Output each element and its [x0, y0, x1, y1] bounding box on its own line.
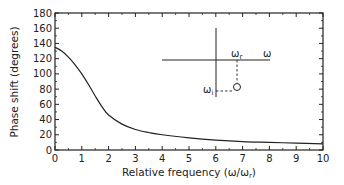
x-tick-label: 6 [213, 153, 219, 164]
x-tick-label: 4 [159, 153, 165, 164]
x-tick-label: 2 [105, 153, 111, 164]
x-tick-label: 3 [132, 153, 138, 164]
y-tick-label: 120 [33, 53, 52, 64]
complex-plane-inset: ωr ω ωi [162, 28, 271, 97]
x-tick-label: 1 [79, 153, 85, 164]
x-axis-tick-labels: 012345678910 [52, 153, 330, 164]
y-tick-label: 140 [33, 38, 52, 49]
x-tick-label: 5 [186, 153, 192, 164]
y-tick-label: 100 [33, 68, 52, 79]
x-tick-label: 0 [52, 153, 58, 164]
x-axis-ticks [55, 13, 323, 150]
y-tick-label: 0 [46, 145, 52, 156]
x-axis-title: Relative frequency (ω/ωr) [122, 166, 256, 180]
y-tick-label: 40 [39, 114, 52, 125]
plot-frame [55, 13, 323, 150]
inset-omega-i-label: ωi [203, 84, 213, 97]
y-axis-title: Phase shift (degrees) [8, 26, 20, 137]
y-axis-ticks [55, 13, 323, 150]
x-tick-label: 7 [239, 153, 245, 164]
y-tick-label: 180 [33, 8, 52, 19]
phase-shift-curve [55, 47, 323, 144]
x-tick-label: 8 [266, 153, 272, 164]
x-tick-label: 10 [317, 153, 330, 164]
x-tick-label: 9 [293, 153, 299, 164]
inset-omega-label: ω [263, 48, 271, 59]
y-axis-tick-labels: 020406080100120140160180 [33, 8, 52, 156]
inset-omega-r-label: ωr [231, 48, 242, 61]
y-tick-label: 80 [39, 84, 52, 95]
phase-shift-chart: 012345678910 020406080100120140160180 Re… [0, 0, 344, 185]
y-tick-label: 20 [39, 129, 52, 140]
y-tick-label: 160 [33, 23, 52, 34]
y-tick-label: 60 [39, 99, 52, 110]
inset-pole-marker [234, 84, 241, 91]
